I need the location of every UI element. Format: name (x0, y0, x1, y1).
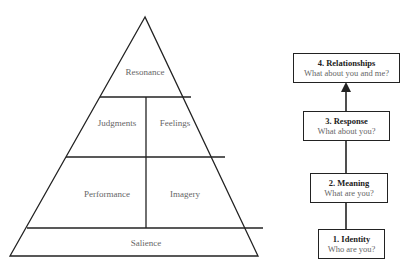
arrow-up-icon (341, 82, 351, 92)
pyramid-level-imagery: Imagery (170, 189, 200, 199)
pyramid-level-salience: Salience (131, 238, 162, 248)
pyramid-outline (10, 17, 258, 256)
step-title: 4. Relationships (294, 58, 399, 68)
step-question: What about you? (304, 126, 389, 136)
step-question: What are you? (311, 188, 387, 198)
step-title: 3. Response (304, 116, 389, 126)
pyramid-level-feelings: Feelings (160, 118, 191, 128)
step-question: What about you and me? (294, 68, 399, 78)
step-title: 1. Identity (319, 234, 384, 244)
step-box-identity: 1. Identity Who are you? (318, 229, 385, 259)
pyramid-level-performance: Performance (84, 189, 130, 199)
pyramid-level-resonance: Resonance (126, 67, 165, 77)
step-box-relationships: 4. Relationships What about you and me? (293, 53, 400, 83)
step-question: Who are you? (319, 244, 384, 254)
step-box-response: 3. Response What about you? (303, 111, 390, 141)
step-title: 2. Meaning (311, 178, 387, 188)
step-box-meaning: 2. Meaning What are you? (310, 173, 388, 203)
pyramid-level-judgments: Judgments (98, 118, 137, 128)
